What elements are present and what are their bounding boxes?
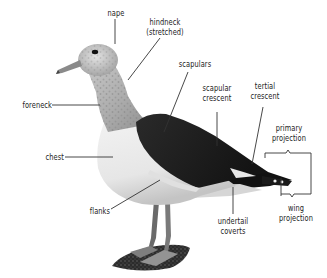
- label-primary-projection: primary projection: [270, 123, 309, 143]
- gull-topography-diagram: nape hindneck (stretched) scapulars scap…: [0, 0, 327, 278]
- label-nape-text: nape: [108, 8, 125, 18]
- label-undertail-coverts: undertail coverts: [214, 216, 253, 236]
- label-scapular-crescent-line1: scapular: [198, 83, 237, 93]
- label-foreneck-text: foreneck: [23, 100, 52, 110]
- label-tertial-crescent-line1: tertial: [246, 81, 285, 91]
- label-flanks: flanks: [87, 206, 110, 216]
- eye: [92, 50, 98, 54]
- label-hindneck-line2: (stretched): [146, 27, 185, 37]
- label-primary-projection-line1: primary: [270, 123, 309, 133]
- left-leg: [148, 200, 159, 250]
- label-scapular-crescent: scapular crescent: [198, 83, 237, 103]
- label-undertail-coverts-line2: coverts: [214, 226, 253, 236]
- label-scapulars: scapulars: [176, 59, 215, 69]
- right-leg: [164, 200, 171, 252]
- label-wing-projection: wing projection: [277, 203, 316, 223]
- label-hindneck-line1: hindneck: [146, 17, 185, 27]
- label-flanks-text: flanks: [90, 206, 110, 216]
- label-tertial-crescent: tertial crescent: [246, 81, 285, 101]
- label-chest: chest: [44, 152, 64, 162]
- leader-hindneck: [128, 38, 160, 80]
- wing-projection-bracket: [281, 158, 311, 197]
- label-scapulars-text: scapulars: [179, 59, 211, 69]
- label-primary-projection-line2: projection: [270, 133, 309, 143]
- label-chest-text: chest: [46, 152, 64, 162]
- label-wing-projection-line2: projection: [277, 213, 316, 223]
- label-undertail-coverts-line1: undertail: [214, 216, 253, 226]
- label-hindneck: hindneck (stretched): [146, 17, 185, 37]
- primary-projection-bracket: [265, 150, 311, 158]
- label-foreneck: foreneck: [21, 100, 52, 110]
- label-wing-projection-line1: wing: [277, 203, 316, 213]
- label-nape: nape: [104, 8, 127, 18]
- label-tertial-crescent-line2: crescent: [246, 91, 285, 101]
- leader-tertial-crescent: [252, 107, 263, 164]
- bill: [56, 60, 82, 74]
- label-scapular-crescent-line2: crescent: [198, 93, 237, 103]
